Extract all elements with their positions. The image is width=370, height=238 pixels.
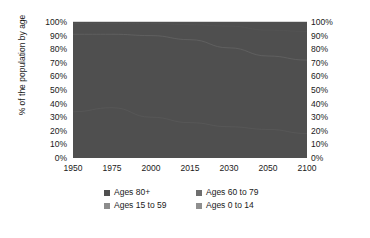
- y-tick-left-60: 60%: [23, 72, 67, 81]
- x-tick-2000: 2000: [131, 163, 171, 173]
- y-tick-left-80: 80%: [23, 45, 67, 54]
- y-tick-right-30: 30%: [311, 113, 355, 122]
- y-tick-right-0: 0%: [311, 154, 355, 163]
- y-tick-right-60: 60%: [311, 72, 355, 81]
- area-ages-80-plus: [73, 22, 307, 158]
- x-tick-2015: 2015: [170, 163, 210, 173]
- y-tick-left-10: 10%: [23, 140, 67, 149]
- y-tick-right-90: 90%: [311, 32, 355, 41]
- legend-label-ages-60-to-79: Ages 60 to 79: [206, 188, 258, 197]
- x-tick-1975: 1975: [92, 163, 132, 173]
- legend-swatch-ages-60-to-79: [196, 190, 202, 196]
- y-tick-right-50: 50%: [311, 86, 355, 95]
- y-tick-right-40: 40%: [311, 100, 355, 109]
- y-tick-left-90: 90%: [23, 32, 67, 41]
- y-tick-right-20: 20%: [311, 127, 355, 136]
- legend-swatch-ages-15-to-59: [104, 203, 110, 209]
- legend-item-ages-0-to-14[interactable]: Ages 0 to 14: [196, 201, 280, 210]
- chart-legend: Ages 80+ Ages 60 to 79 Ages 15 to 59 Age…: [104, 186, 280, 212]
- legend-swatch-ages-0-to-14: [196, 203, 202, 209]
- y-tick-right-70: 70%: [311, 59, 355, 68]
- y-tick-right-80: 80%: [311, 45, 355, 54]
- y-tick-left-40: 40%: [23, 100, 67, 109]
- x-tick-2030: 2030: [209, 163, 249, 173]
- y-tick-right-100: 100%: [311, 18, 355, 27]
- legend-item-ages-15-to-59[interactable]: Ages 15 to 59: [104, 201, 196, 210]
- chart-title-remnant: [0, 0, 370, 7]
- legend-row-2: Ages 15 to 59 Ages 0 to 14: [104, 199, 280, 212]
- y-tick-left-100: 100%: [23, 18, 67, 27]
- y-tick-right-10: 10%: [311, 140, 355, 149]
- y-tick-left-30: 30%: [23, 113, 67, 122]
- y-tick-left-20: 20%: [23, 127, 67, 136]
- legend-label-ages-0-to-14: Ages 0 to 14: [206, 201, 254, 210]
- legend-swatch-ages-80-plus: [104, 190, 110, 196]
- y-tick-left-0: 0%: [23, 154, 67, 163]
- legend-row-1: Ages 80+ Ages 60 to 79: [104, 186, 280, 199]
- legend-item-ages-80-plus[interactable]: Ages 80+: [104, 188, 196, 197]
- x-tick-2050: 2050: [248, 163, 288, 173]
- stacked-area-series: [73, 22, 307, 158]
- y-tick-left-70: 70%: [23, 59, 67, 68]
- y-tick-left-50: 50%: [23, 86, 67, 95]
- legend-label-ages-15-to-59: Ages 15 to 59: [114, 201, 166, 210]
- legend-item-ages-60-to-79[interactable]: Ages 60 to 79: [196, 188, 280, 197]
- chart-page: % of the population by age 100% 90% 80% …: [0, 0, 370, 238]
- plot-area: [73, 22, 307, 158]
- legend-label-ages-80-plus: Ages 80+: [114, 188, 150, 197]
- x-tick-1950: 1950: [53, 163, 93, 173]
- x-tick-2100: 2100: [287, 163, 327, 173]
